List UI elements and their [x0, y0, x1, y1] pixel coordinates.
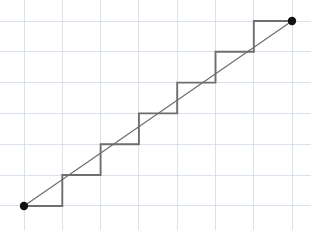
lower-left-endpoint: [20, 202, 28, 210]
staircase-figure: [0, 0, 311, 230]
figure-canvas: [0, 0, 311, 230]
upper-right-endpoint: [288, 17, 296, 25]
